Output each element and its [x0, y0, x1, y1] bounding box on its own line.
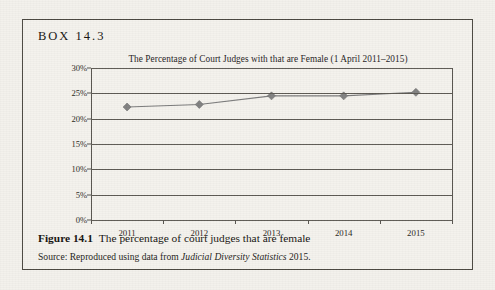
x-axis-tick-label: 2015 [407, 228, 425, 238]
y-axis-tick-label: 25% [72, 88, 87, 98]
y-axis-tick [87, 68, 91, 69]
data-point-marker [195, 100, 203, 108]
y-axis-tick-label: 20% [72, 114, 87, 124]
y-axis-tick-label: 5% [76, 190, 87, 200]
x-axis-tick [91, 220, 92, 224]
data-point-marker [412, 88, 420, 96]
source-publication: Judicial Diversity Statistics [181, 251, 287, 262]
figure-number: Figure 14.1 [38, 232, 93, 244]
plot-canvas [91, 68, 453, 220]
gridline [91, 195, 452, 196]
gridline [91, 93, 452, 94]
figure-source: Source: Reproduced using data from Judic… [38, 251, 311, 262]
y-axis-tick-label: 0% [76, 215, 87, 225]
y-axis-tick [87, 194, 91, 195]
chart-title: The Percentage of Court Judges with that… [78, 54, 458, 64]
y-axis-tick [87, 144, 91, 145]
y-axis-tick [87, 118, 91, 119]
x-axis-tick [163, 220, 164, 224]
chart-plot-area: 0%5%10%15%20%25%30% 20112012201320142015 [58, 68, 458, 243]
x-axis-tick [308, 220, 309, 224]
x-axis-tick [235, 220, 236, 224]
box-container: BOX 14.3 The Percentage of Court Judges … [22, 19, 473, 270]
figure-caption: Figure 14.1The percentage of court judge… [38, 232, 310, 244]
gridline [91, 144, 452, 145]
gridline [91, 119, 452, 120]
y-axis-tick-label: 30% [72, 63, 87, 73]
gridline [91, 68, 452, 69]
source-suffix: 2015. [289, 251, 311, 262]
gridline [91, 220, 452, 221]
box-label: BOX 14.3 [38, 29, 105, 44]
x-axis-tick [380, 220, 381, 224]
y-axis-tick-label: 15% [72, 139, 87, 149]
y-axis-tick [87, 93, 91, 94]
y-axis-labels: 0%5%10%15%20%25%30% [58, 68, 87, 220]
figure-caption-text: The percentage of court judges that are … [99, 232, 311, 244]
x-axis-tick-label: 2014 [335, 228, 353, 238]
y-axis-tick [87, 169, 91, 170]
source-prefix: Source: Reproduced using data from [38, 251, 179, 262]
x-axis-tick [452, 220, 453, 224]
gridline [91, 169, 452, 170]
y-axis-tick-label: 10% [72, 164, 87, 174]
data-point-marker [123, 103, 131, 111]
